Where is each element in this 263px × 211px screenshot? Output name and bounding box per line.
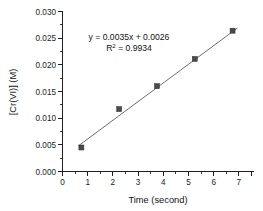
r-squared-value: = 0.9934 xyxy=(116,43,152,53)
y-tick-label: 0.015 xyxy=(36,88,57,97)
y-tick-label: 0.005 xyxy=(36,141,57,150)
x-tick-label: 5 xyxy=(186,178,191,187)
x-tick-label: 7 xyxy=(237,178,242,187)
y-tick-label: 0.020 xyxy=(36,61,57,70)
y-tick-label: 0.010 xyxy=(36,114,57,123)
y-tick-label: 0.030 xyxy=(36,8,57,17)
data-point-marker xyxy=(230,28,235,33)
y-tick-label: 0.025 xyxy=(36,34,57,43)
chart-figure: 0.0000.0050.0100.0150.0200.0250.030 0123… xyxy=(0,0,263,211)
data-point-marker xyxy=(192,56,197,61)
x-tick-label: 1 xyxy=(85,178,90,187)
x-tick-label: 6 xyxy=(211,178,216,187)
data-point-marker xyxy=(154,84,159,89)
regression-equation-label: y = 0.0035x + 0.0026 xyxy=(89,32,170,42)
data-point-marker xyxy=(79,145,84,150)
x-tick-label: 2 xyxy=(111,178,116,187)
x-axis-title: Time (second) xyxy=(128,195,187,205)
x-tick-label: 3 xyxy=(136,178,141,187)
y-tick-label: 0.000 xyxy=(36,168,57,177)
y-axis-title: [Cr(VI)] (M) xyxy=(8,69,18,115)
chart-plot-area: 0.0000.0050.0100.0150.0200.0250.030 0123… xyxy=(0,0,263,211)
x-tick-label: 0 xyxy=(60,178,65,187)
x-tick-label: 4 xyxy=(161,178,166,187)
data-point-marker xyxy=(117,107,122,112)
